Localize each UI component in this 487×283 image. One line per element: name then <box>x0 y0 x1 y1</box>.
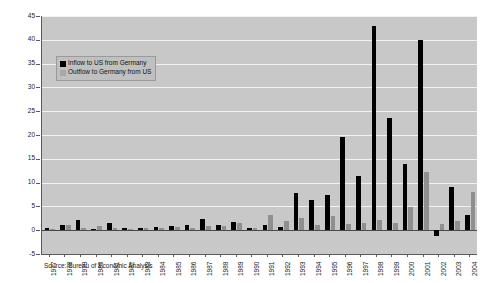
x-axis-tick-label: 1991 <box>269 262 276 276</box>
y-axis-tick-mark <box>36 183 40 184</box>
bar-outflow <box>206 226 211 230</box>
bar-outflow <box>66 225 71 230</box>
legend-label-outflow: Outflow to Germany from US <box>68 69 151 76</box>
legend-swatch-inflow-icon <box>60 61 66 67</box>
bar-inflow <box>294 193 299 230</box>
x-axis-tick-mark <box>205 254 206 257</box>
bar-outflow <box>128 229 133 230</box>
x-axis-tick-mark <box>438 254 439 257</box>
y-axis-tick-mark <box>36 159 40 160</box>
bar-outflow <box>299 218 304 230</box>
chart-container: 454035302520151050-5 1977197819791980198… <box>0 0 487 283</box>
bar-outflow <box>81 228 86 230</box>
bar-outflow <box>284 221 289 231</box>
legend-swatch-outflow-icon <box>60 70 66 76</box>
y-axis-tick-mark <box>36 230 40 231</box>
bar-inflow <box>372 26 377 231</box>
y-axis-tick-label: 5 <box>31 203 35 210</box>
y-axis-tick-mark <box>36 40 40 41</box>
x-axis-tick-mark <box>391 254 392 257</box>
x-axis-tick-label: 2000 <box>409 262 416 276</box>
y-axis-tick-mark <box>36 87 40 88</box>
bar-outflow <box>331 216 336 230</box>
bar-inflow <box>216 225 221 231</box>
bar-outflow <box>346 224 351 231</box>
bars-layer <box>42 16 477 254</box>
x-axis-tick-mark <box>454 254 455 257</box>
x-axis-tick-mark <box>96 254 97 257</box>
bar-inflow <box>278 227 283 230</box>
y-axis-tick-label: 15 <box>28 155 35 162</box>
y-axis-tick-label: 30 <box>28 84 35 91</box>
bar-outflow <box>222 226 227 230</box>
x-axis-tick-mark <box>251 254 252 257</box>
bar-outflow <box>408 207 413 230</box>
bar-outflow <box>268 215 273 230</box>
bar-inflow <box>356 176 361 230</box>
x-axis-tick-mark <box>345 254 346 257</box>
bar-inflow <box>403 164 408 231</box>
bar-outflow <box>97 226 102 230</box>
x-axis-tick-mark <box>469 254 470 257</box>
x-axis-tick-label: 1985 <box>176 262 183 276</box>
bar-outflow <box>175 227 180 230</box>
bar-inflow <box>138 228 143 230</box>
x-axis-tick-label: 1986 <box>191 262 198 276</box>
bar-inflow <box>60 225 65 230</box>
x-axis-tick-label: 1995 <box>332 262 339 276</box>
bar-outflow <box>393 223 398 230</box>
x-axis-tick-label: 1987 <box>207 262 214 276</box>
bar-outflow <box>455 221 460 230</box>
bar-outflow <box>362 223 367 230</box>
x-axis-tick-mark <box>142 254 143 257</box>
bar-inflow <box>325 195 330 230</box>
x-axis-tick-label: 1992 <box>285 262 292 276</box>
x-axis-tick-mark <box>111 254 112 257</box>
bar-inflow <box>107 223 112 231</box>
x-axis-tick-label: 1994 <box>316 262 323 276</box>
x-axis-tick-label: 1984 <box>160 262 167 276</box>
x-axis-tick-label: 1990 <box>254 262 261 276</box>
bar-inflow <box>76 220 81 230</box>
x-axis-tick-label: 1989 <box>238 262 245 276</box>
bar-outflow <box>424 172 429 231</box>
x-axis-tick-label: 1999 <box>394 262 401 276</box>
x-axis-tick-label: 1997 <box>363 262 370 276</box>
y-axis-tick-mark <box>36 206 40 207</box>
x-axis-tick-mark <box>423 254 424 257</box>
y-axis-tick-label: 0 <box>31 227 35 234</box>
x-axis-tick-mark <box>189 254 190 257</box>
bar-outflow <box>237 223 242 231</box>
x-axis-tick-label: 2003 <box>456 262 463 276</box>
y-axis: 454035302520151050-5 <box>0 0 41 283</box>
x-axis-tick-mark <box>282 254 283 257</box>
bar-outflow <box>50 229 55 230</box>
bar-inflow <box>465 215 470 230</box>
bar-inflow <box>45 228 50 230</box>
bar-inflow <box>263 225 268 230</box>
bar-inflow <box>231 222 236 230</box>
bar-outflow <box>377 220 382 230</box>
bar-outflow <box>440 224 445 230</box>
y-axis-tick-label: -5 <box>29 251 35 258</box>
bar-inflow <box>200 219 205 230</box>
bar-outflow <box>144 228 149 230</box>
y-axis-tick-label: 20 <box>28 132 35 139</box>
bar-inflow <box>309 200 314 230</box>
y-axis-tick-label: 10 <box>28 179 35 186</box>
bar-outflow <box>190 228 195 230</box>
bar-outflow <box>113 228 118 230</box>
x-axis-tick-mark <box>360 254 361 257</box>
y-axis-tick-label: 35 <box>28 60 35 67</box>
x-axis-tick-label: 1996 <box>347 262 354 276</box>
bar-outflow <box>315 225 320 230</box>
source-note: Source: Bureau of Economic Analysis <box>44 262 152 269</box>
bar-inflow <box>449 187 454 230</box>
y-axis-tick-mark <box>36 135 40 136</box>
bar-inflow <box>247 228 252 230</box>
x-axis-tick-label: 1988 <box>223 262 230 276</box>
y-axis-tick-mark <box>36 254 40 255</box>
x-axis-tick-mark <box>127 254 128 257</box>
x-axis-tick-label: 1993 <box>300 262 307 276</box>
x-axis-tick-mark <box>220 254 221 257</box>
